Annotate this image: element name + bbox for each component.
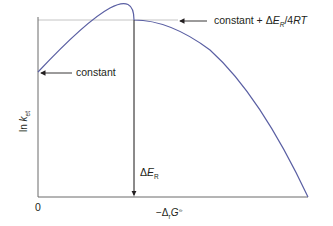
origin-label: 0: [35, 202, 41, 213]
max-label: constant + ΔER/4RT: [214, 15, 307, 26]
x-axis-label: −ΔrG⦵: [156, 208, 183, 218]
x-label-sup: ⦵: [178, 206, 183, 213]
delta-e-sub: R: [154, 173, 159, 180]
rate-curve: [38, 4, 308, 197]
marcus-plot: [0, 0, 333, 226]
delta-e-prefix: Δ: [140, 166, 147, 178]
x-label-prefix: −Δ: [156, 207, 169, 218]
delta-e-label: ΔER: [140, 167, 159, 178]
y-label-var: k: [18, 116, 29, 121]
delta-e-var: E: [147, 166, 154, 178]
max-label-rt: RT: [293, 14, 307, 26]
max-label-var: E: [273, 14, 280, 26]
y-label-prefix: ln: [18, 121, 29, 132]
max-label-prefix: constant + Δ: [214, 14, 273, 26]
intercept-label: constant: [76, 67, 116, 78]
y-label-sub: et: [24, 111, 31, 116]
max-label-suffix: /4: [284, 14, 293, 26]
y-axis-label: ln ket: [18, 111, 29, 132]
